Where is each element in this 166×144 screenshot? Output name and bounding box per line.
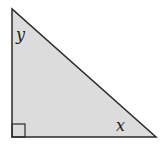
angle-label-x: x [116, 116, 125, 135]
angle-label-y: y [15, 25, 26, 44]
triangle-shape [12, 9, 156, 137]
right-triangle-diagram: y x [0, 0, 166, 144]
